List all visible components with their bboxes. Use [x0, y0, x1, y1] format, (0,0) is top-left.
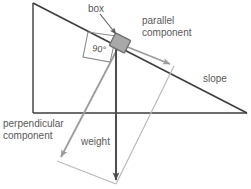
parallel-component-label-line2: component [142, 27, 192, 38]
physics-slope-diagram: box 90° parallel component slope perpend… [0, 0, 251, 189]
parallel-component-label-line1: parallel [142, 15, 174, 26]
box-leader-line [100, 14, 116, 34]
perpendicular-component-label-line2: component [3, 130, 53, 141]
parallelogram-side-from-parallel-tip [116, 66, 174, 184]
triangle-hypotenuse-slope-surface [33, 3, 247, 113]
slope-triangle [33, 3, 247, 113]
parallelogram-side-from-perpendicular-tip [57, 161, 116, 184]
diagram-canvas: box 90° parallel component slope perpend… [0, 0, 251, 189]
slope-label: slope [203, 73, 227, 84]
box-label-leader [100, 14, 116, 34]
perpendicular-component-label-line1: perpendicular [3, 118, 64, 129]
right-angle-label: 90° [92, 43, 107, 55]
box-label: box [88, 3, 104, 14]
weight-label: weight [80, 136, 110, 147]
